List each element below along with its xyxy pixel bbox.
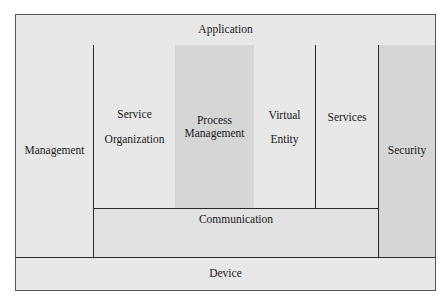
virtual-entity-line2: Entity [270, 134, 298, 146]
service-organization-block: Service Organization [93, 45, 176, 210]
device-label: Device [209, 268, 242, 280]
management-label: Management [24, 145, 84, 157]
virtual-entity-line1: Virtual [269, 110, 301, 122]
services-block: Services [315, 45, 379, 210]
communication-layer: Communication [93, 208, 379, 258]
process-management-block: Process Management [175, 45, 255, 210]
virtual-entity-block: Virtual Entity [254, 45, 316, 210]
process-management-line1: Process [197, 115, 232, 127]
application-label: Application [198, 24, 252, 36]
security-label: Security [388, 145, 426, 157]
service-organization-line2: Organization [105, 134, 165, 146]
device-layer: Device [15, 257, 436, 291]
process-management-line2: Management [184, 128, 244, 140]
security-layer: Security [378, 45, 436, 258]
service-organization-line1: Service [117, 109, 151, 121]
application-layer: Application [15, 14, 436, 46]
services-label: Services [328, 112, 367, 124]
management-layer: Management [15, 45, 94, 258]
communication-label: Communication [199, 214, 273, 226]
